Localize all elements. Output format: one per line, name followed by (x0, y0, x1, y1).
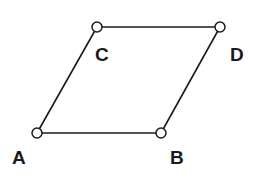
vertex-label-d: D (230, 44, 244, 65)
vertex-c-circle-icon (92, 22, 102, 32)
vertex-b-circle-icon (156, 128, 166, 138)
edges (37, 27, 220, 133)
parallelogram-diagram: A B C D (0, 0, 254, 178)
vertex-a-circle-icon (32, 128, 42, 138)
vertex-label-a: A (12, 147, 26, 168)
edge-b-d (161, 27, 220, 133)
labels: A B C D (12, 44, 244, 168)
vertex-d-circle-icon (215, 22, 225, 32)
edge-c-a (37, 27, 97, 133)
vertex-label-b: B (170, 147, 184, 168)
vertex-label-c: C (95, 44, 109, 65)
vertices (32, 22, 225, 138)
